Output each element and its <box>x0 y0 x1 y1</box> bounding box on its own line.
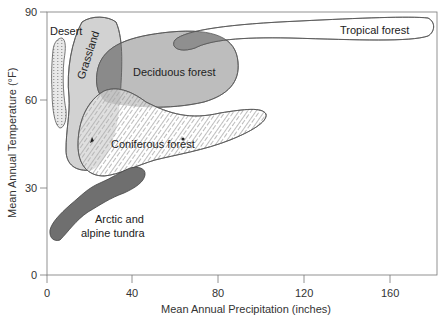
x-tick-120: 120 <box>295 287 313 299</box>
y-tick-30: 30 <box>25 182 37 194</box>
y-tick-90: 90 <box>25 6 37 18</box>
x-tick-40: 40 <box>126 287 138 299</box>
y-axis-title: Mean Annual Temperature (°F) <box>6 68 18 218</box>
x-axis-title: Mean Annual Precipitation (inches) <box>161 303 331 315</box>
label-desert: Desert <box>50 25 82 37</box>
x-tick-160: 160 <box>381 287 399 299</box>
label-coniferous-forest: Coniferous forest <box>111 138 195 150</box>
x-tick-0: 0 <box>44 287 50 299</box>
label-tropical-forest: Tropical forest <box>340 24 409 36</box>
label-tundra-line2: alpine tundra <box>81 227 145 239</box>
label-deciduous-forest: Deciduous forest <box>133 66 216 78</box>
x-axis <box>47 275 390 283</box>
y-tick-60: 60 <box>25 94 37 106</box>
y-axis <box>40 12 47 275</box>
region-desert <box>52 38 67 128</box>
x-tick-80: 80 <box>212 287 224 299</box>
y-tick-0: 0 <box>31 269 37 281</box>
label-tundra-line1: Arctic and <box>95 213 144 225</box>
biome-climate-chart: Desert Grassland Deciduous forest Tropic… <box>0 0 445 329</box>
